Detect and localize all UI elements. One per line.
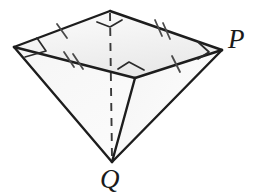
vertex-label-q: Q <box>100 166 120 192</box>
vertex-label-p: P <box>228 26 245 53</box>
geometry-figure: P Q <box>0 0 258 192</box>
geometry-diagram-svg <box>0 0 258 192</box>
